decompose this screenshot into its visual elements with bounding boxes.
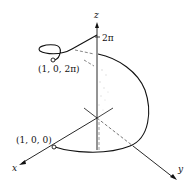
y-axis-label: y — [178, 165, 183, 174]
hidden-curve-1 — [75, 50, 94, 54]
x-axis-back — [97, 108, 113, 118]
y-axis-arrow-icon — [170, 174, 177, 180]
cylinder-shade — [98, 69, 108, 110]
helix-curve-upper — [39, 35, 97, 60]
z-axis-arrow-icon — [95, 22, 99, 28]
hidden-curve-2 — [84, 60, 94, 66]
z-tick-label: 2π — [102, 34, 114, 43]
y-axis-back — [84, 108, 97, 118]
z-axis-label: z — [94, 11, 99, 20]
point-start-label: (1, 0, 0) — [16, 136, 52, 145]
helix-figure — [0, 0, 192, 180]
point-start-marker — [52, 145, 56, 149]
point-end-marker — [51, 58, 55, 62]
x-axis-arrow-icon — [19, 160, 26, 165]
y-axis — [133, 146, 174, 178]
y-axis-hidden — [97, 118, 133, 146]
x-axis-label: x — [12, 164, 17, 173]
point-end-label: (1, 0, 2π) — [38, 65, 80, 74]
